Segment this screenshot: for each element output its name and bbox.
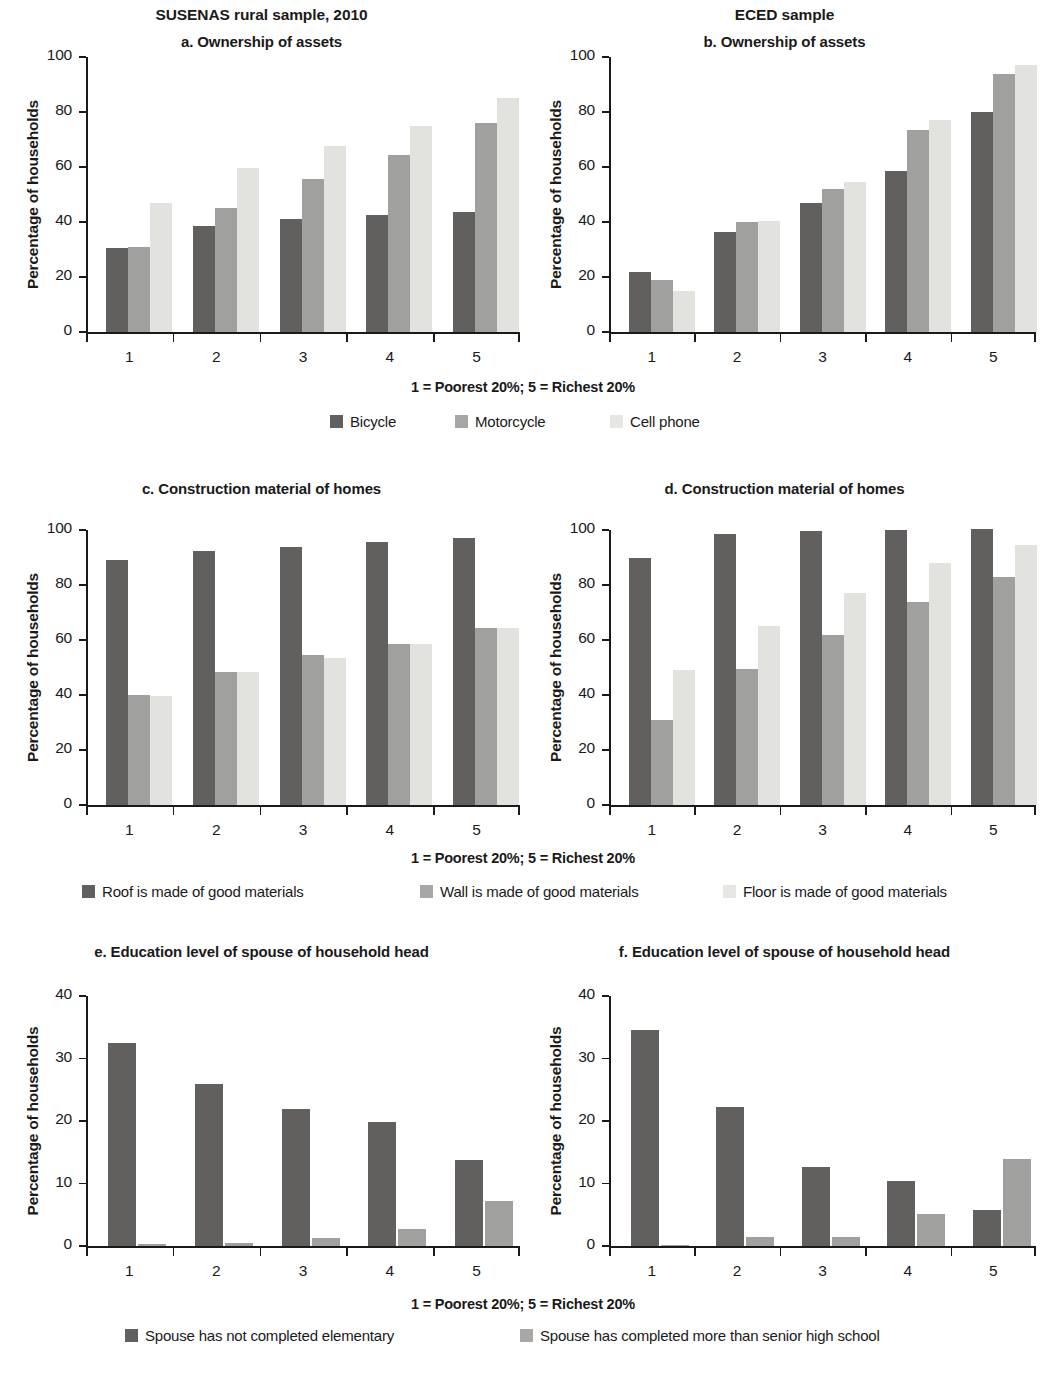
bar [150,203,172,332]
bar [497,98,519,332]
y-axis-tick-label: 0 [551,1235,595,1253]
x-axis-category-label: 1 [609,1262,694,1280]
bar [844,593,866,805]
y-axis-tick [79,749,86,751]
bar [800,531,822,805]
legend-item[interactable]: Floor is made of good materials [723,883,947,900]
x-axis-tick [433,1247,435,1256]
x-axis-category-label: 1 [609,821,694,839]
panel-b-plot: Percentage of households0204060801001234… [523,0,1046,380]
bar [973,1210,1001,1246]
y-axis-line [86,57,88,342]
legend-label: Spouse has not completed elementary [145,1327,394,1344]
y-axis-tick-label: 100 [551,519,595,537]
x-axis-category-label: 2 [694,1262,779,1280]
x-axis-tick [260,333,262,342]
legend-swatch-icon [610,415,623,428]
x-axis-category-label: 1 [609,348,694,366]
x-axis-category-label: 5 [951,1262,1036,1280]
y-axis-tick [602,749,609,751]
y-axis-tick [602,56,609,58]
x-axis-tick [260,806,262,815]
bar [673,291,695,332]
x-axis-tick [346,1247,348,1256]
legend-label: Wall is made of good materials [440,883,639,900]
bar [324,146,346,332]
panel-e-plot: Percentage of households01020304012345 [0,911,523,1291]
bar [885,171,907,332]
legend-swatch-icon [420,885,433,898]
x-axis-tick [951,806,953,815]
legend-item[interactable]: Roof is made of good materials [82,883,304,900]
bar [832,1237,860,1246]
y-axis-tick-label: 0 [551,321,595,339]
bar [993,74,1015,333]
y-axis-tick [602,995,609,997]
y-axis-tick-label: 40 [551,211,595,229]
y-axis-tick-label: 0 [28,1235,72,1253]
bar [485,1201,513,1246]
y-axis-tick [79,639,86,641]
legend-item[interactable]: Motorcycle [455,413,546,430]
x-axis-category-label: 2 [173,1262,260,1280]
x-axis-line [86,805,520,807]
y-axis-tick [602,529,609,531]
bar [106,248,128,332]
y-axis-tick-label: 20 [551,266,595,284]
x-axis-category-label: 4 [346,1262,433,1280]
y-axis-tick-label: 100 [28,519,72,537]
bar [651,280,673,332]
y-axis-tick-label: 40 [28,985,72,1003]
bar [237,672,259,805]
chart-row-construction: c. Construction material of homes Percen… [0,470,1046,910]
axis-caption-row-3: 1 = Poorest 20%; 5 = Richest 20% [0,1296,1046,1312]
bar [971,112,993,332]
bar [800,203,822,332]
y-axis-tick [602,111,609,113]
legend-item[interactable]: Bicycle [330,413,396,430]
bar [366,215,388,332]
x-axis-tick [173,1247,175,1256]
bar [150,696,172,805]
legend-item[interactable]: Spouse has not completed elementary [125,1327,394,1344]
bar [138,1244,166,1246]
y-axis-tick-label: 100 [551,46,595,64]
y-axis-tick [602,166,609,168]
legend-row-2: Roof is made of good materialsWall is ma… [0,883,1046,907]
bar [410,126,432,332]
x-axis-category-label: 3 [260,821,347,839]
bar [736,222,758,332]
x-axis-tick [260,1247,262,1256]
x-axis-tick [865,806,867,815]
bar [758,626,780,805]
bar [388,644,410,805]
x-axis-tick [173,806,175,815]
x-axis-category-label: 2 [694,348,779,366]
y-axis-tick [79,584,86,586]
bar [475,123,497,332]
legend-item[interactable]: Cell phone [610,413,700,430]
bar [215,672,237,805]
bar [106,560,128,805]
x-axis-tick [433,806,435,815]
x-axis-category-label: 3 [780,1262,865,1280]
y-axis-line [86,530,88,815]
x-axis-category-label: 4 [865,1262,950,1280]
bar [388,155,410,332]
y-axis-label: Percentage of households [24,530,42,805]
y-axis-tick-label: 40 [551,684,595,702]
y-axis-tick [79,331,86,333]
legend-item[interactable]: Wall is made of good materials [420,883,639,900]
bar [714,534,736,805]
legend-swatch-icon [520,1329,533,1342]
y-axis-label: Percentage of households [547,530,565,805]
x-axis-tick [780,333,782,342]
x-axis-category-label: 4 [346,348,433,366]
y-axis-tick [79,221,86,223]
legend-row-3: Spouse has not completed elementarySpous… [0,1327,1046,1351]
y-axis-tick [79,1183,86,1185]
bar [629,272,651,333]
legend-item[interactable]: Spouse has completed more than senior hi… [520,1327,880,1344]
y-axis-tick-label: 30 [28,1048,72,1066]
bar [312,1238,340,1246]
